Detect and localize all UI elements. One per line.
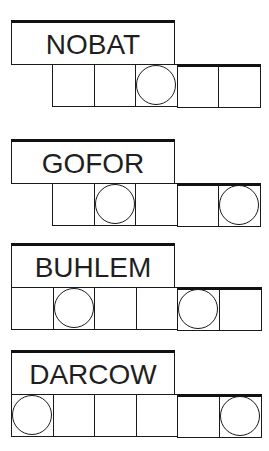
- letter-square[interactable]: [53, 394, 96, 437]
- letter-square[interactable]: [94, 287, 137, 330]
- letter-square[interactable]: [52, 64, 95, 107]
- letter-square-circled[interactable]: [11, 394, 54, 437]
- scrambled-word: BUHLEM: [35, 252, 152, 282]
- letter-square-circled[interactable]: [94, 183, 137, 226]
- letter-square[interactable]: [94, 394, 137, 437]
- scrambled-word-box: BUHLEM: [11, 243, 175, 288]
- letter-square-circled[interactable]: [135, 64, 178, 107]
- circle-marker-icon: [220, 396, 260, 436]
- scrambled-word: DARCOW: [29, 359, 157, 389]
- letter-square-circled[interactable]: [218, 183, 261, 227]
- letter-square[interactable]: [219, 287, 262, 331]
- letter-square[interactable]: [177, 394, 220, 438]
- letter-square-circled[interactable]: [219, 394, 262, 438]
- answer-squares: [11, 394, 262, 436]
- answer-squares: [11, 287, 262, 329]
- letter-square[interactable]: [135, 183, 178, 226]
- scrambled-word-box: NOBAT: [11, 20, 175, 65]
- scrambled-word-box: DARCOW: [11, 350, 175, 395]
- letter-square[interactable]: [177, 64, 220, 108]
- letter-square[interactable]: [218, 64, 261, 108]
- scrambled-word: NOBAT: [46, 29, 140, 59]
- letter-square[interactable]: [94, 64, 137, 107]
- letter-square[interactable]: [136, 394, 179, 437]
- letter-square[interactable]: [177, 183, 220, 227]
- circle-marker-icon: [178, 289, 218, 329]
- letter-square[interactable]: [52, 183, 95, 226]
- circle-marker-icon: [136, 65, 176, 105]
- letter-square-circled[interactable]: [53, 287, 96, 330]
- letter-square[interactable]: [11, 287, 54, 330]
- answer-squares: [52, 183, 261, 225]
- circle-marker-icon: [219, 185, 259, 225]
- scrambled-word-box: GOFOR: [11, 139, 175, 184]
- circle-marker-icon: [95, 184, 135, 224]
- answer-squares: [52, 64, 261, 106]
- letter-square-circled[interactable]: [177, 287, 220, 331]
- scrambled-word: GOFOR: [42, 148, 145, 178]
- circle-marker-icon: [12, 395, 52, 435]
- circle-marker-icon: [54, 288, 94, 328]
- letter-square[interactable]: [136, 287, 179, 330]
